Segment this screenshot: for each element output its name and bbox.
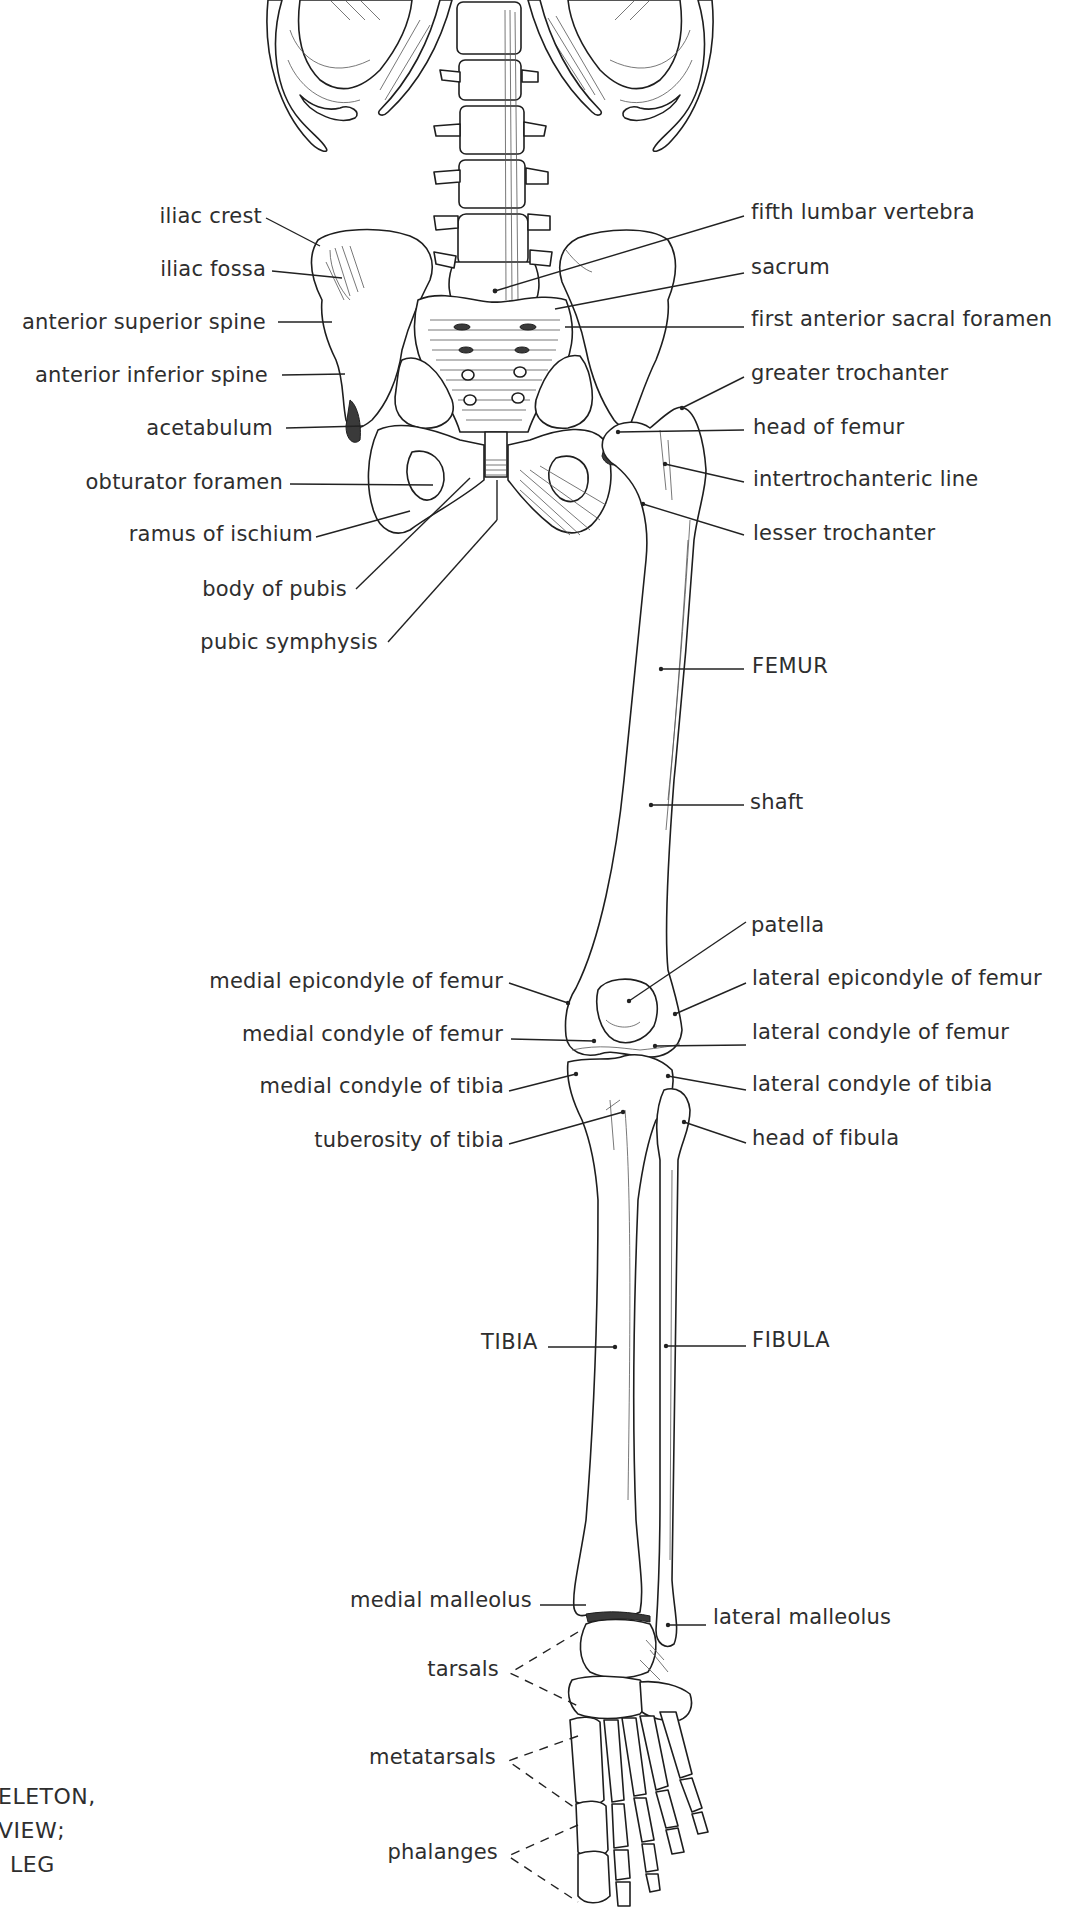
label-body-of-pubis: body of pubis: [202, 576, 347, 602]
label-iliac-fossa: iliac fossa: [160, 256, 266, 282]
label-iliac-crest: iliac crest: [159, 203, 262, 229]
skeleton-illustration: [0, 0, 1068, 1910]
leader-lateral-condyle-of-tibia: [668, 1076, 746, 1090]
leader-lateral-epicondyle-of-femur: [675, 983, 746, 1014]
dashed-leader-lines: [508, 1632, 578, 1902]
label-ramus-of-ischium: ramus of ischium: [129, 521, 313, 547]
figure-caption-line-2: VIEW;: [0, 1814, 65, 1848]
label-anterior-inferior-spine: anterior inferior spine: [35, 362, 268, 388]
label-medial-condyle-of-femur: medial condyle of femur: [242, 1021, 503, 1047]
leader-medial-condyle-of-tibia: [509, 1074, 576, 1091]
label-lateral-condyle-of-femur: lateral condyle of femur: [752, 1019, 1009, 1045]
label-sacrum: sacrum: [751, 254, 830, 280]
figure-caption-line-1: ELETON,: [0, 1780, 96, 1814]
lumbar-spine: [434, 2, 552, 308]
figure-caption-line-3: LEG: [10, 1848, 55, 1882]
label-acetabulum: acetabulum: [146, 415, 273, 441]
label-head-of-fibula: head of fibula: [752, 1125, 899, 1151]
leader-anterior-inferior-spine: [282, 374, 345, 375]
label-medial-epicondyle-of-femur: medial epicondyle of femur: [209, 968, 503, 994]
leader-greater-trochanter: [682, 377, 744, 408]
label-head-of-femur: head of femur: [753, 414, 904, 440]
label-pubic-symphysis: pubic symphysis: [200, 629, 378, 655]
fibula: [656, 1089, 690, 1647]
label-anterior-superior-spine: anterior superior spine: [22, 309, 266, 335]
label-intertrochanteric-line: intertrochanteric line: [753, 466, 978, 492]
label-patella: patella: [751, 912, 824, 938]
label-medial-condyle-of-tibia: medial condyle of tibia: [260, 1073, 504, 1099]
label-fifth-lumbar-vertebra: fifth lumbar vertebra: [751, 199, 975, 225]
dashed-leader-phalanges: [508, 1825, 578, 1902]
label-fibula: FIBULA: [752, 1327, 830, 1353]
label-obturator-foramen: obturator foramen: [86, 469, 283, 495]
leader-medial-epicondyle-of-femur: [509, 983, 568, 1003]
foot: [569, 1612, 708, 1906]
label-lesser-trochanter: lesser trochanter: [753, 520, 935, 546]
leader-obturator-foramen: [290, 484, 433, 485]
leader-pubic-symphysis: [388, 520, 497, 642]
label-metatarsals: metatarsals: [369, 1744, 496, 1770]
label-phalanges: phalanges: [387, 1839, 498, 1865]
label-lateral-condyle-of-tibia: lateral condyle of tibia: [752, 1071, 993, 1097]
label-first-anterior-sacral-foramen: first anterior sacral foramen: [751, 306, 1052, 332]
leader-lateral-condyle-of-femur: [655, 1045, 746, 1046]
anatomy-figure: iliac crestiliac fossaanterior superior …: [0, 0, 1068, 1910]
label-tarsals: tarsals: [427, 1656, 499, 1682]
label-femur: FEMUR: [752, 653, 828, 679]
label-lateral-malleolus: lateral malleolus: [713, 1604, 891, 1630]
dashed-leader-metatarsals: [508, 1736, 578, 1810]
label-tuberosity-of-tibia: tuberosity of tibia: [314, 1127, 504, 1153]
label-greater-trochanter: greater trochanter: [751, 360, 948, 386]
dashed-leader-tarsals: [510, 1632, 578, 1706]
leader-iliac-crest: [266, 218, 320, 246]
label-lateral-epicondyle-of-femur: lateral epicondyle of femur: [752, 965, 1042, 991]
label-tibia: TIBIA: [481, 1329, 538, 1355]
label-medial-malleolus: medial malleolus: [350, 1587, 532, 1613]
label-shaft: shaft: [750, 789, 803, 815]
leader-head-of-fibula: [684, 1122, 746, 1143]
